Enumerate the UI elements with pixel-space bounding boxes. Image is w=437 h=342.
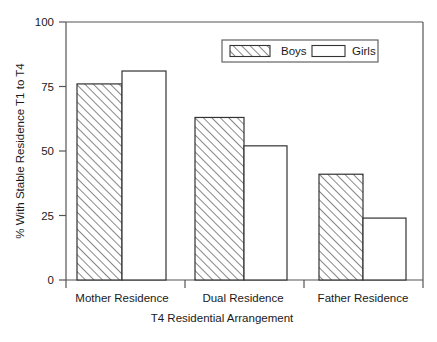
y-axis-title: % With Stable Residence T1 to T4 — [14, 63, 26, 239]
legend-swatch-boys — [230, 46, 270, 57]
y-tick-label-50: 50 — [41, 145, 54, 157]
bar-boys-father-residence[interactable] — [319, 174, 363, 280]
y-tick-label-100: 100 — [35, 16, 54, 28]
bar-boys-mother-residence[interactable] — [77, 84, 122, 280]
legend-label-boys: Boys — [281, 45, 307, 57]
bar-group-mother-residence — [77, 71, 166, 280]
bar-girls-dual-residence[interactable] — [244, 146, 287, 280]
y-tick-label-25: 25 — [41, 210, 54, 222]
legend-label-girls: Girls — [352, 45, 376, 57]
y-tick-label-0: 0 — [48, 274, 54, 286]
bar-girls-father-residence[interactable] — [363, 218, 406, 280]
bar-girls-mother-residence[interactable] — [122, 71, 166, 280]
legend-swatch-girls — [312, 46, 345, 57]
x-category-label-mother-residence: Mother Residence — [75, 292, 168, 304]
y-tick-label-75: 75 — [41, 81, 54, 93]
bar-chart-figure: 100 75 50 25 0 % With Stable Residence T… — [0, 0, 437, 342]
chart-legend[interactable]: Boys Girls — [222, 40, 378, 62]
x-category-label-father-residence: Father Residence — [318, 292, 409, 304]
bar-boys-dual-residence[interactable] — [195, 117, 244, 280]
x-axis-title: T4 Residential Arrangement — [151, 312, 294, 324]
x-category-label-dual-residence: Dual Residence — [202, 292, 283, 304]
